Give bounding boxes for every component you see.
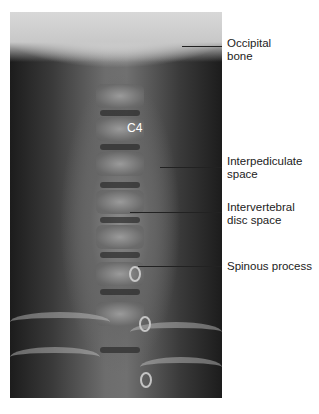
vertebra-label-c4: C4: [127, 121, 142, 135]
label-intervertebral-disc-space: Intervertebral disc space: [227, 201, 295, 227]
spinous-process-marker: [129, 266, 141, 282]
vertebra: [96, 225, 144, 249]
disc: [100, 144, 140, 150]
disc: [100, 110, 140, 116]
label-occipital-bone: Occipital bone: [227, 37, 271, 63]
rib: [140, 357, 222, 377]
label-interpediculate-space: Interpediculate space: [227, 155, 302, 181]
spinous-process-marker: [140, 372, 152, 388]
disc: [100, 289, 140, 295]
label-spinous-process: Spinous process: [227, 260, 312, 273]
leader-line-spinous: [138, 266, 222, 267]
leader-line-occipital: [182, 46, 222, 47]
rib: [10, 347, 100, 367]
rib: [10, 312, 110, 332]
vertebra: [96, 84, 144, 108]
vertebra: [96, 152, 144, 176]
disc: [100, 217, 140, 223]
leader-line-intervertebral: [130, 212, 222, 213]
disc: [100, 252, 140, 258]
disc: [100, 182, 140, 188]
occipital-region: [10, 12, 222, 62]
vertebra: [96, 190, 144, 214]
leader-line-interpediculate: [160, 167, 222, 168]
rib: [130, 322, 222, 342]
disc: [100, 347, 140, 353]
xray-image: C4: [10, 12, 222, 398]
